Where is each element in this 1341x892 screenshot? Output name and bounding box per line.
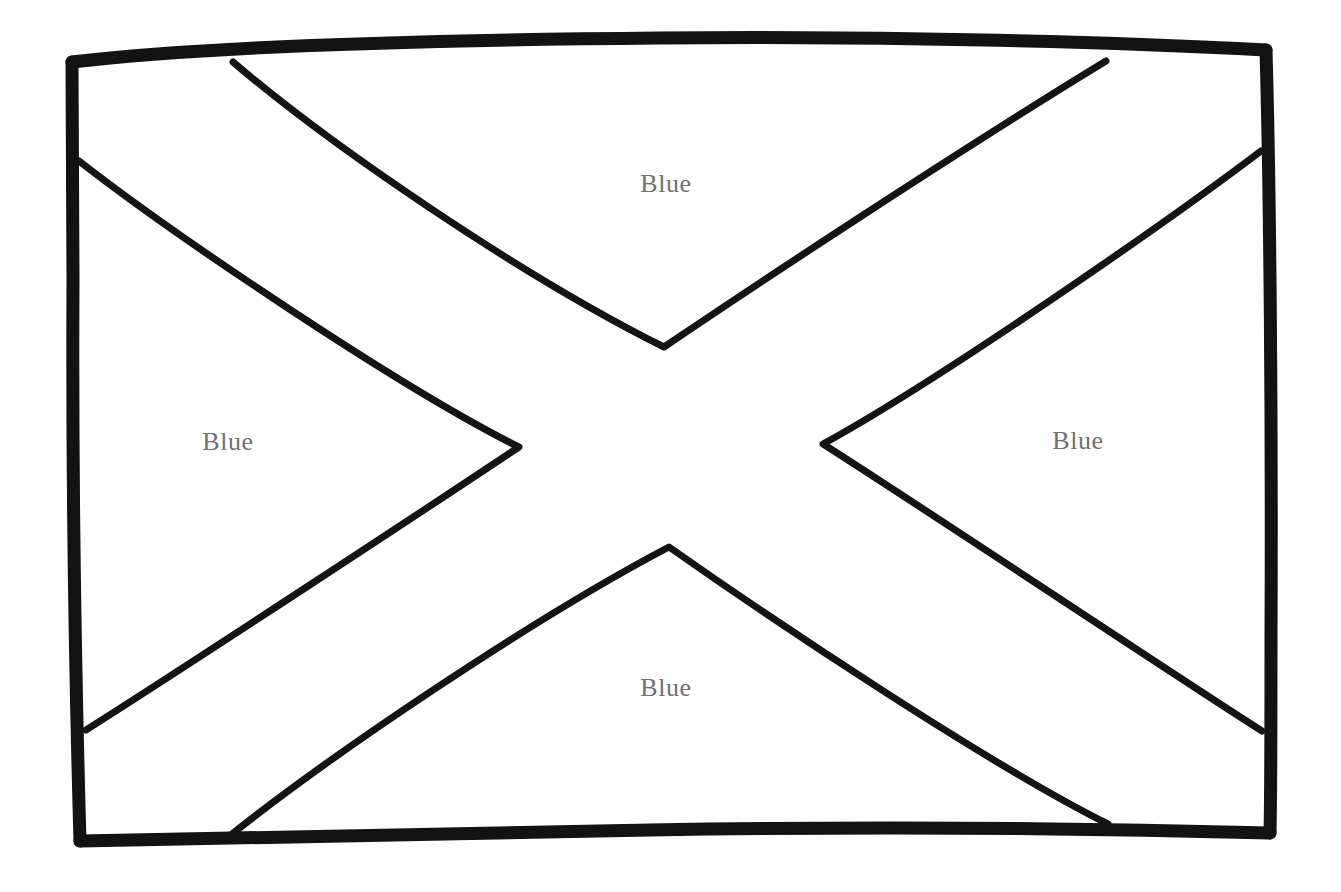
color-label-right-field: Blue [1052,426,1104,456]
flag-border-top [72,38,1266,62]
flag-border-bottom [80,828,1270,841]
flag-border-right [1266,50,1271,833]
flag-border-left [72,62,80,841]
saltire-left-chevron [79,161,519,730]
color-label-left-field: Blue [202,427,254,457]
flag-coloring-page: Blue Blue Blue Blue [0,0,1341,892]
flag-outline-drawing [0,0,1341,892]
saltire-right-chevron [823,151,1262,731]
color-label-top-field: Blue [640,169,692,199]
saltire-upper-v [233,61,1106,347]
color-label-bottom-field: Blue [640,673,692,703]
